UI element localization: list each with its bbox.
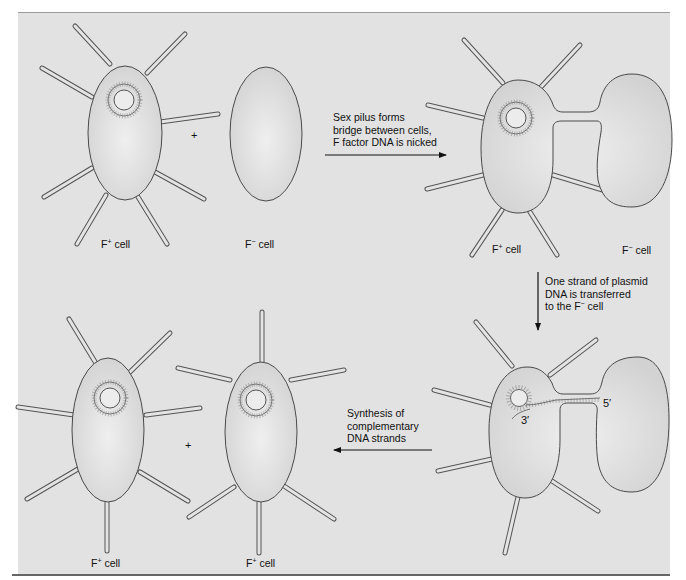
bottom-center-f-plus-label: F+ cell	[246, 557, 275, 570]
step1-line-3: F factor DNA is nicked	[333, 136, 437, 149]
top-right-f-plus-label: F+ cell	[492, 243, 521, 256]
label-rest: cell	[256, 238, 275, 250]
label-rest: cell	[633, 244, 652, 256]
label-rest: cell	[503, 243, 522, 255]
top-left-f-minus-cell	[230, 67, 302, 201]
step3-caption: Synthesis of complementary DNA strands	[347, 407, 419, 445]
top-right-f-minus-label: F− cell	[622, 244, 651, 257]
step2-line-3: to the F− cell	[545, 300, 648, 313]
bottom-plus-sign: +	[185, 439, 191, 451]
step1-line-2: bridge between cells,	[333, 124, 437, 137]
conjugation-diagram: F+ cell F− cell + Sex pilus forms bridge…	[0, 0, 686, 580]
five-prime-label: 5′	[603, 397, 611, 409]
step1-line-1: Sex pilus forms	[333, 111, 437, 124]
top-left-f-minus-label: F− cell	[245, 238, 274, 251]
cell-body	[225, 362, 297, 502]
bottom-left-f-plus-label: F+ cell	[91, 557, 120, 570]
label-rest: cell	[102, 557, 121, 569]
three-prime-label: 3′	[521, 414, 529, 426]
step2-line-1: One strand of plasmid	[545, 275, 648, 288]
cell-body	[72, 358, 144, 502]
step2-line-3-prefix: to the F	[545, 300, 581, 312]
step3-line-1: Synthesis of	[347, 407, 419, 420]
step2-line-3-suffix: cell	[585, 300, 604, 312]
label-rest: cell	[112, 238, 131, 250]
label-rest: cell	[257, 557, 276, 569]
step3-line-2: complementary	[347, 420, 419, 433]
step2-line-2: DNA is transferred	[545, 288, 648, 301]
step2-caption: One strand of plasmid DNA is transferred…	[545, 275, 648, 313]
top-left-plus-sign: +	[191, 129, 197, 141]
top-left-f-plus-label: F+ cell	[101, 238, 130, 251]
step1-caption: Sex pilus forms bridge between cells, F …	[333, 111, 437, 149]
step3-line-3: DNA strands	[347, 432, 419, 445]
